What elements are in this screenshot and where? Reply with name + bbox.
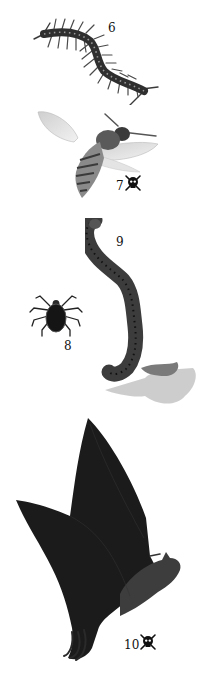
skull-crossbones-icon: [124, 174, 142, 192]
centipede-illustration: [30, 15, 165, 105]
wasp-illustration: [30, 110, 170, 200]
illustration-plate: 6 7: [0, 0, 207, 696]
specimen-number-8: 8: [64, 340, 72, 352]
specimen-number-6: 6: [108, 22, 116, 34]
leech-illustration: [85, 218, 207, 418]
specimen-number-10: 10: [124, 639, 139, 651]
bat-illustration: [12, 418, 192, 678]
specimen-number-7: 7: [116, 180, 124, 192]
skull-crossbones-icon: [139, 633, 157, 651]
specimen-number-9: 9: [116, 236, 124, 248]
tick-illustration: [28, 292, 84, 342]
